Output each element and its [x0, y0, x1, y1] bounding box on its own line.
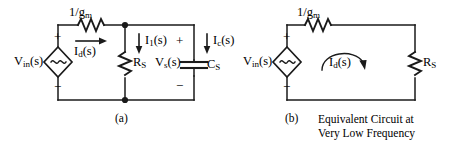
panel-a-source-label: Vin(s) [14, 55, 43, 69]
circuit-figure: 1/gm Id(s) Vin(s) + − I1(s) RS Vs(s) + −… [0, 0, 453, 150]
panel-a-source-plus-sign: + [54, 30, 61, 43]
panel-a-top-node-dot [122, 22, 128, 28]
panel-a-id-current-label: Id(s) [74, 45, 96, 59]
panel-a-ic-arrow-head [204, 46, 211, 54]
panel-b-source-label: Vin(s) [243, 55, 272, 69]
panel-a-source-minus-sign: − [54, 80, 61, 93]
panel-b-source-plus-sign: + [283, 30, 290, 43]
panel-b-caption-tag: (b) [285, 112, 298, 124]
panel-b-caption-text: Equivalent Circuit at Very Low Frequency [318, 112, 415, 141]
panel-b-caption-line1: Equivalent Circuit at [318, 112, 415, 126]
panel-a-bottom-node-dot [122, 97, 128, 103]
panel-b-loop-current-arrow-head [359, 60, 366, 70]
panel-a-i1-arrow-head [136, 46, 143, 54]
panel-a-i1-current-label: I1(s) [145, 34, 167, 48]
panel-a-shunt-resistor-symbol [119, 52, 131, 75]
panel-a-series-resistor-symbol [78, 19, 104, 31]
panel-a-node-voltage-label: Vs(s) [155, 56, 181, 70]
panel-a-ic-current-label: Ic(s) [213, 34, 234, 48]
panel-a-caption: (a) [115, 112, 128, 124]
panel-b-source-minus-sign: − [283, 80, 290, 93]
panel-a-node-voltage-plus-sign: + [176, 34, 183, 47]
panel-b-load-resistor-label: RS [423, 56, 436, 70]
panel-b-load-resistor-symbol [409, 52, 421, 75]
panel-a-capacitor-label: CS [207, 58, 220, 72]
panel-a-source-sine-glyph [51, 61, 66, 64]
panel-b-loop-current-label: Id(s) [329, 56, 351, 70]
panel-b-series-resistor-symbol [305, 19, 331, 31]
panel-a-shunt-resistor-label: RS [133, 56, 146, 70]
panel-b-series-resistor-label: 1/gm [297, 6, 320, 20]
panel-a-id-arrow-head [99, 38, 107, 45]
panel-b-source-sine-glyph [280, 61, 295, 64]
panel-a-node-voltage-minus-sign: − [176, 79, 183, 92]
panel-b-caption-line2: Very Low Frequency [318, 126, 415, 140]
panel-a-series-resistor-label: 1/gm [69, 6, 92, 20]
